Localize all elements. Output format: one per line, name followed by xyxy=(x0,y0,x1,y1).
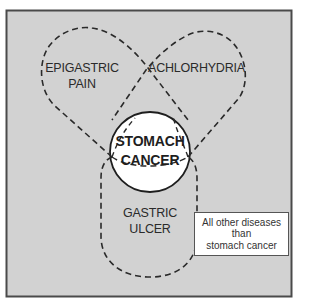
legend-line-3: stomach cancer xyxy=(206,240,277,252)
legend-line-2: than xyxy=(232,228,251,240)
stomach-cancer-label: STOMACH CANCER xyxy=(110,132,190,170)
achlorhydria-label: ACHLORHYDRIA xyxy=(148,60,240,76)
legend-box: All other diseases than stomach cancer xyxy=(194,212,289,256)
gastric-ulcer-label: GASTRIC ULCER xyxy=(110,205,190,237)
legend-line-1: All other diseases xyxy=(202,217,281,229)
epigastric-pain-label: EPIGASTRIC PAIN xyxy=(44,60,120,92)
